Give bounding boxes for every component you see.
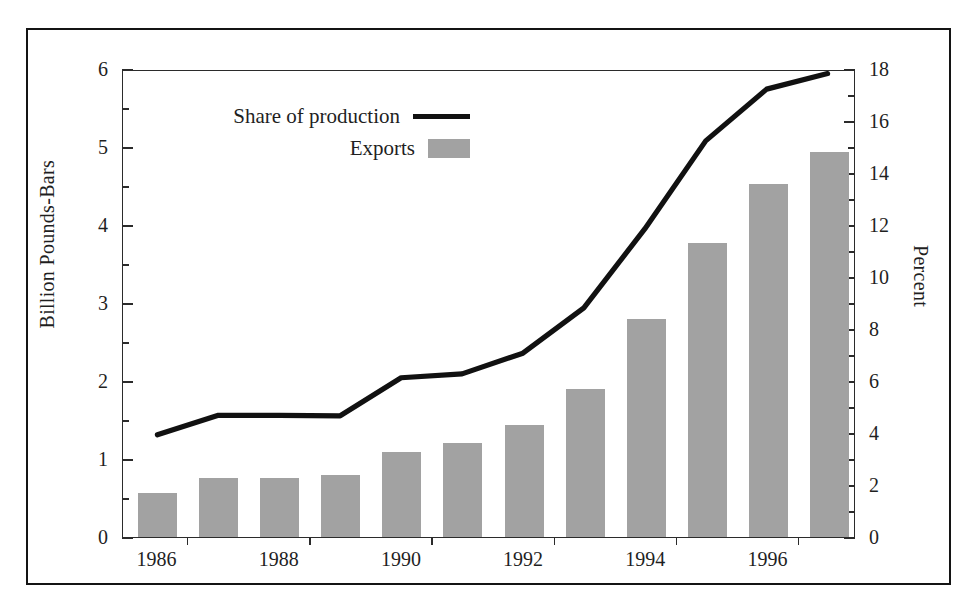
right-tick-label-4: 4 bbox=[869, 423, 903, 443]
left-tick-label-5: 5 bbox=[76, 137, 108, 157]
right-tick-label-16: 16 bbox=[869, 111, 903, 131]
right-tick-label-6: 6 bbox=[869, 371, 903, 391]
chart-legend: Share of production Exports bbox=[140, 100, 470, 164]
right-tick-label-2: 2 bbox=[869, 475, 903, 495]
legend-line-swatch-icon bbox=[413, 114, 470, 119]
x-tick-label-1990: 1990 bbox=[366, 548, 436, 571]
left-tick-label-4: 4 bbox=[76, 215, 108, 235]
legend-label-exports: Exports bbox=[350, 136, 415, 161]
right-axis-title: Percent bbox=[902, 245, 932, 307]
x-tick-mark-4 bbox=[431, 538, 432, 545]
left-tick-label-0: 0 bbox=[76, 527, 108, 547]
left-tick-label-6: 6 bbox=[76, 59, 108, 79]
left-axis-title: Billion Pounds-Bars bbox=[36, 160, 66, 329]
x-tick-mark-2 bbox=[309, 538, 310, 545]
x-tick-label-1996: 1996 bbox=[732, 548, 802, 571]
x-tick-mark-0 bbox=[187, 538, 188, 545]
right-tick-label-10: 10 bbox=[869, 267, 903, 287]
x-tick-label-1986: 1986 bbox=[122, 548, 192, 571]
legend-item-share-of-production: Share of production bbox=[140, 100, 470, 132]
right-tick-label-14: 14 bbox=[869, 163, 903, 183]
right-tick-label-18: 18 bbox=[869, 59, 903, 79]
right-tick-label-0: 0 bbox=[869, 527, 903, 547]
left-tick-label-2: 2 bbox=[76, 371, 108, 391]
legend-label-share-of-production: Share of production bbox=[233, 104, 400, 129]
x-tick-mark-10 bbox=[798, 538, 799, 545]
right-tick-label-8: 8 bbox=[869, 319, 903, 339]
left-tick-label-3: 3 bbox=[76, 293, 108, 313]
x-tick-mark-8 bbox=[676, 538, 677, 545]
right-tick-label-12: 12 bbox=[869, 215, 903, 235]
x-tick-label-1992: 1992 bbox=[488, 548, 558, 571]
x-tick-mark-6 bbox=[554, 538, 555, 545]
x-tick-label-1994: 1994 bbox=[610, 548, 680, 571]
chart-figure: 0123456 024681012141618 1986198819901992… bbox=[0, 0, 973, 610]
legend-item-exports: Exports bbox=[140, 132, 470, 164]
legend-bar-swatch-icon bbox=[428, 139, 470, 158]
left-tick-label-1: 1 bbox=[76, 449, 108, 469]
x-tick-label-1988: 1988 bbox=[244, 548, 314, 571]
